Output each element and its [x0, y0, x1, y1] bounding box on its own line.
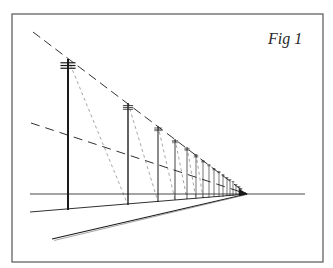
mid-construction-line [31, 123, 247, 194]
road-edge-line [52, 194, 247, 239]
diagonal-construction-line [175, 139, 187, 199]
pole-base-line [30, 194, 247, 212]
diagonal-construction-line [196, 154, 203, 198]
road-edge-line-inner [54, 195, 247, 241]
telegraph-poles [60, 59, 248, 210]
figure-label: Fig 1 [268, 30, 302, 48]
figure-canvas: Fig 1 [0, 0, 333, 268]
vanishing-point-cluster [239, 189, 248, 196]
ground-lines [30, 194, 305, 241]
construction-lines [31, 32, 247, 205]
diagonal-construction-line [68, 59, 128, 205]
diagonal-construction-line [128, 103, 158, 202]
